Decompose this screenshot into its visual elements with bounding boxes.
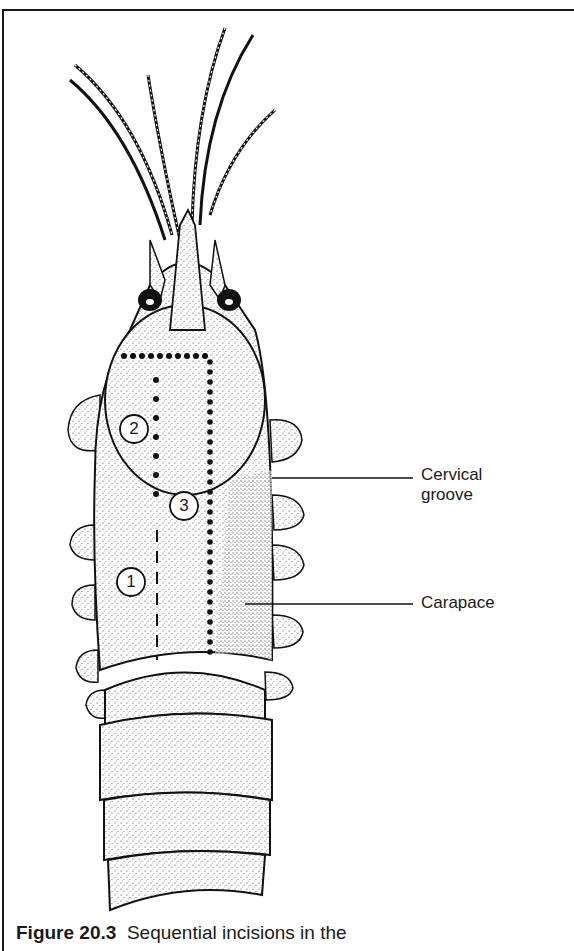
label-cervical-line2: groove	[421, 485, 482, 505]
marker-1-label: 1	[123, 572, 139, 592]
label-cervical-line1: Cervical	[421, 465, 482, 485]
caption-text: Sequential incisions in the	[127, 922, 347, 943]
marker-2-label: 2	[126, 419, 142, 439]
abdomen	[100, 673, 272, 911]
label-cervical-groove: Cervical groove	[421, 465, 482, 505]
figure-number: Figure 20.3	[16, 922, 116, 943]
figure-caption: Figure 20.3 Sequential incisions in the	[16, 922, 347, 944]
rostrum	[170, 210, 205, 330]
marker-3-label: 3	[176, 496, 192, 516]
label-carapace: Carapace	[421, 593, 495, 613]
